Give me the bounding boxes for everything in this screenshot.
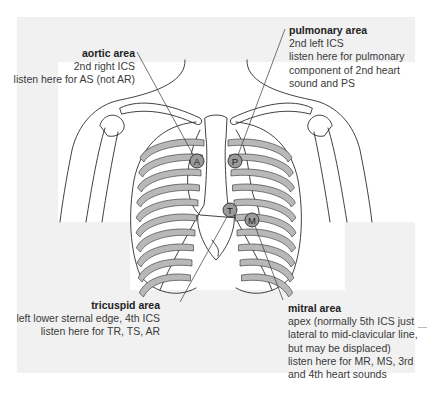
mitral-marker: M	[245, 213, 259, 227]
tricuspid-pointer-line	[180, 215, 228, 302]
rib-left	[139, 274, 190, 297]
pulmonary-line-1: 2nd left ICS	[289, 37, 405, 50]
sternum	[198, 115, 235, 260]
tricuspid-marker: T	[223, 203, 237, 217]
tricuspid-annotation: tricuspid area left lower sternal edge, …	[16, 299, 160, 339]
aortic-marker-letter: A	[194, 156, 201, 167]
mitral-annotation: mitral area apex (normally 5th ICS just …	[288, 302, 418, 381]
rib-right	[242, 274, 293, 297]
right-clavicle	[230, 103, 312, 124]
aortic-annotation: aortic area 2nd right ICS listen here fo…	[14, 47, 135, 87]
mitral-line-3: but may be displaced)	[288, 342, 418, 355]
tricuspid-title: tricuspid area	[16, 299, 160, 312]
aortic-title: aortic area	[14, 47, 135, 60]
pulmonary-annotation: pulmonary area 2nd left ICS listen here …	[289, 24, 405, 90]
mitral-title: mitral area	[288, 302, 418, 315]
pulmonary-marker: P	[228, 154, 242, 168]
edge-mark	[418, 327, 427, 328]
mitral-marker-letter: M	[248, 215, 256, 226]
mitral-line-1: apex (normally 5th ICS just	[288, 315, 418, 328]
aortic-marker: A	[190, 154, 204, 168]
pulmonary-pointer-line	[238, 29, 285, 155]
mitral-line-4: listen here for MR, MS, 3rd	[288, 355, 418, 368]
left-humerus	[86, 128, 118, 222]
right-humeral-head	[308, 115, 332, 136]
pulmonary-line-3: component of 2nd heart	[289, 64, 405, 77]
aortic-line-2: listen here for AS (not AR)	[14, 73, 135, 86]
tricuspid-line-1: left lower sternal edge, 4th ICS	[16, 312, 160, 325]
tricuspid-line-2: listen here for TR, TS, AR	[16, 325, 160, 338]
pulmonary-marker-letter: P	[232, 156, 238, 167]
aortic-line-1: 2nd right ICS	[14, 60, 135, 73]
right-humerus	[314, 128, 347, 222]
pulmonary-line-4: sound and PS	[289, 77, 405, 90]
mitral-line-5: and 4th heart sounds	[288, 368, 418, 381]
pulmonary-line-2: listen here for pulmonary	[289, 50, 405, 63]
left-clavicle	[120, 103, 202, 124]
pulmonary-title: pulmonary area	[289, 24, 405, 37]
ribs	[136, 139, 296, 297]
tricuspid-marker-letter: T	[227, 205, 233, 216]
mitral-line-2: lateral to mid-clavicular line,	[288, 328, 418, 341]
